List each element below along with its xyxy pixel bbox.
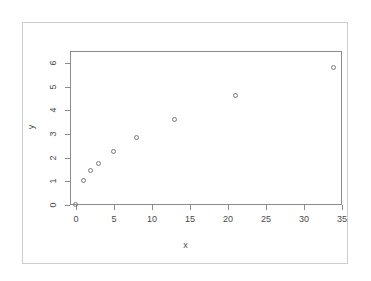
x-tick-label: 35 bbox=[332, 214, 352, 224]
data-point bbox=[88, 168, 93, 173]
x-tick-label: 25 bbox=[256, 214, 276, 224]
y-tick-mark bbox=[65, 134, 70, 135]
plot-frame bbox=[70, 51, 342, 205]
data-point bbox=[233, 93, 238, 98]
data-point bbox=[111, 149, 116, 154]
x-tick-mark bbox=[114, 205, 115, 210]
y-tick-mark bbox=[65, 181, 70, 182]
y-tick-mark bbox=[65, 63, 70, 64]
y-tick-mark bbox=[65, 205, 70, 206]
y-tick-label: 5 bbox=[48, 80, 58, 94]
y-tick-label: 3 bbox=[48, 127, 58, 141]
x-tick-label: 15 bbox=[180, 214, 200, 224]
x-tick-mark bbox=[266, 205, 267, 210]
x-tick-label: 30 bbox=[294, 214, 314, 224]
y-tick-mark bbox=[65, 110, 70, 111]
y-tick-label: 1 bbox=[48, 174, 58, 188]
x-tick-label: 20 bbox=[218, 214, 238, 224]
x-tick-mark bbox=[228, 205, 229, 210]
scatter-plot-figure: 0123456 05101520253035 y x bbox=[0, 0, 371, 281]
x-tick-mark bbox=[190, 205, 191, 210]
x-axis-title: x bbox=[0, 240, 371, 250]
x-tick-mark bbox=[304, 205, 305, 210]
y-tick-label: 2 bbox=[48, 151, 58, 165]
y-tick-label: 4 bbox=[48, 103, 58, 117]
y-axis-title: y bbox=[26, 120, 36, 134]
data-point bbox=[81, 178, 86, 183]
y-tick-label: 6 bbox=[48, 56, 58, 70]
x-tick-label: 5 bbox=[104, 214, 124, 224]
data-point bbox=[73, 202, 78, 207]
data-point bbox=[172, 117, 177, 122]
data-point bbox=[96, 161, 101, 166]
y-tick-mark bbox=[65, 87, 70, 88]
x-tick-mark bbox=[152, 205, 153, 210]
x-tick-mark bbox=[342, 205, 343, 210]
y-tick-mark bbox=[65, 158, 70, 159]
x-tick-label: 10 bbox=[142, 214, 162, 224]
y-tick-label: 0 bbox=[48, 198, 58, 212]
x-tick-label: 0 bbox=[66, 214, 86, 224]
data-point bbox=[134, 135, 139, 140]
